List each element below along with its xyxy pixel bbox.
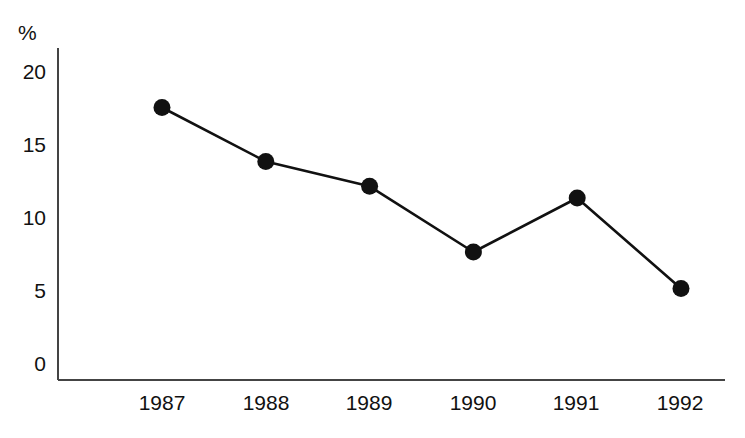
- data-point-1989: [361, 178, 378, 195]
- data-point-1991: [569, 190, 586, 207]
- data-marker-group: [154, 99, 690, 297]
- data-point-1990: [465, 244, 482, 261]
- data-point-1988: [257, 153, 274, 170]
- plot-area: [0, 0, 745, 438]
- data-line: [162, 108, 681, 289]
- line-chart: % 20 15 10 5 0 1987 1988 1989 1990 1991 …: [0, 0, 745, 438]
- data-point-1992: [673, 280, 690, 297]
- data-point-1987: [154, 99, 171, 116]
